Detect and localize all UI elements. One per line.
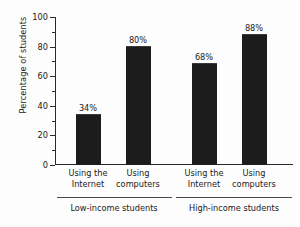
x-axis-category-label: Using theInternet <box>69 168 108 189</box>
bar-value-label: 88% <box>245 23 263 33</box>
y-axis-minor-tick <box>52 121 55 122</box>
group-label: Low-income students <box>70 203 157 213</box>
y-axis-tick <box>50 47 55 48</box>
x-axis-category-label: Usingcomputers <box>232 168 276 189</box>
y-axis-tick <box>50 135 55 136</box>
y-axis-minor-tick <box>52 61 55 62</box>
bar <box>126 46 151 165</box>
y-axis-tick <box>50 165 55 166</box>
y-axis-minor-tick <box>52 91 55 92</box>
x-axis-category-label: Using theInternet <box>185 168 224 189</box>
y-axis-tick <box>50 106 55 107</box>
y-axis-minor-tick <box>52 150 55 151</box>
bar-value-label: 68% <box>195 52 213 62</box>
x-axis-category-label-line2: Internet <box>185 179 224 190</box>
y-axis-tick <box>50 76 55 77</box>
group-separator-rule <box>176 197 292 198</box>
x-axis-category-label: Usingcomputers <box>116 168 160 189</box>
x-axis-labels: Using theInternetUsingcomputersUsing the… <box>55 168 293 194</box>
y-axis-tick <box>50 17 55 18</box>
y-axis-tick-label: 100 <box>32 12 48 22</box>
x-axis-category-label-line2: computers <box>232 179 276 190</box>
y-axis-minor-tick <box>52 32 55 33</box>
x-axis-category-label-line1: Using the <box>69 168 108 178</box>
plot-area: 02040608010034%80%68%88% <box>55 17 293 165</box>
y-axis-title: Percentage of students <box>18 0 28 135</box>
x-axis-category-label-line1: Using <box>243 168 266 178</box>
group-separator-rule <box>57 197 172 198</box>
x-axis-category-label-line1: Using <box>127 168 150 178</box>
y-axis-line <box>55 17 56 165</box>
y-axis-tick-label: 60 <box>38 71 48 81</box>
bar-value-label: 80% <box>129 35 147 45</box>
bar <box>242 34 267 165</box>
bar <box>76 114 101 165</box>
bar <box>192 63 217 165</box>
y-axis-tick-label: 80 <box>38 42 48 52</box>
y-axis-tick-label: 40 <box>38 101 48 111</box>
x-axis-category-label-line1: Using the <box>185 168 224 178</box>
group-label: High-income students <box>189 203 279 213</box>
y-axis-tick-label: 0 <box>43 160 48 170</box>
bar-chart: Percentage of students 02040608010034%80… <box>0 0 300 227</box>
x-axis-category-label-line2: Internet <box>69 179 108 190</box>
x-axis-category-label-line2: computers <box>116 179 160 190</box>
y-axis-tick-label: 20 <box>38 130 48 140</box>
bar-value-label: 34% <box>79 103 97 113</box>
